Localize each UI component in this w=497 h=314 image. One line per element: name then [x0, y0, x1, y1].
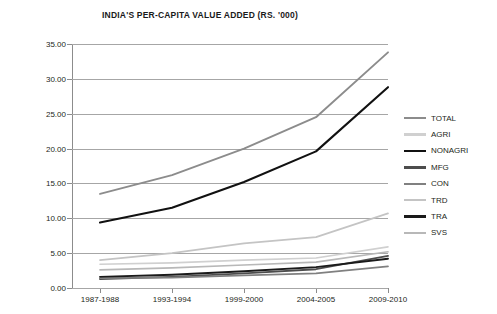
legend-item-mfg[interactable]: MFG — [404, 159, 497, 175]
gridline — [72, 288, 388, 289]
legend-swatch-agri — [404, 133, 426, 135]
x-axis-tick-mark — [244, 289, 245, 293]
y-axis-tick-mark — [67, 183, 72, 184]
legend-item-nonagri[interactable]: NONAGRI — [404, 143, 497, 159]
legend-item-agri[interactable]: AGRI — [404, 126, 497, 142]
y-axis-tick-mark — [67, 44, 72, 45]
y-axis-tick-label: 35.00 — [46, 40, 66, 49]
x-axis-tick-mark — [172, 289, 173, 293]
y-axis-tick-label: 15.00 — [46, 179, 66, 188]
legend-swatch-total — [404, 117, 426, 120]
legend-swatch-mfg — [404, 166, 426, 169]
legend-item-con[interactable]: CON — [404, 176, 497, 192]
legend-label: MFG — [431, 163, 449, 172]
y-axis-tick-mark — [67, 253, 72, 254]
y-axis-tick-mark — [67, 79, 72, 80]
legend-label: TRA — [431, 212, 447, 221]
legend-label: CON — [431, 179, 449, 188]
legend-item-trd[interactable]: TRD — [404, 192, 497, 208]
legend-label: TRD — [431, 196, 447, 205]
y-axis-tick-mark — [67, 288, 72, 289]
x-axis-tick-label: 1993-1994 — [153, 295, 191, 304]
legend-item-tra[interactable]: TRA — [404, 208, 497, 224]
legend-label: TOTAL — [431, 114, 456, 123]
y-axis-tick-label: 30.00 — [46, 74, 66, 83]
y-axis-tick-mark — [67, 149, 72, 150]
y-axis-tick-mark — [67, 114, 72, 115]
y-axis-tick-label: 0.00 — [50, 284, 66, 293]
legend-swatch-con — [404, 183, 426, 185]
x-axis-tick-mark — [316, 289, 317, 293]
x-axis-tick-label: 1987-1988 — [81, 295, 119, 304]
chart-legend: TOTALAGRINONAGRIMFGCONTRDTRASVS — [404, 110, 497, 241]
legend-label: NONAGRI — [431, 146, 468, 155]
series-lines — [72, 44, 388, 288]
legend-item-total[interactable]: TOTAL — [404, 110, 497, 126]
legend-label: AGRI — [431, 130, 451, 139]
series-line-nonagri — [100, 87, 388, 222]
chart-container: INDIA'S PER-CAPITA VALUE ADDED (RS. '000… — [0, 0, 497, 314]
x-axis-tick-label: 2009-2010 — [369, 295, 407, 304]
y-axis-tick-label: 25.00 — [46, 109, 66, 118]
plot-area — [72, 44, 388, 288]
x-axis-tick-mark — [388, 289, 389, 293]
y-axis-tick-mark — [67, 218, 72, 219]
y-axis-tick-labels: 0.005.0010.0015.0020.0025.0030.0035.00 — [0, 44, 66, 289]
x-axis-tick-label: 2004-2005 — [297, 295, 335, 304]
y-axis-tick-label: 20.00 — [46, 144, 66, 153]
x-axis-tick-mark — [100, 289, 101, 293]
legend-swatch-trd — [404, 199, 426, 201]
legend-swatch-svs — [404, 232, 426, 234]
legend-swatch-nonagri — [404, 150, 426, 153]
y-axis-tick-label: 10.00 — [46, 214, 66, 223]
series-line-total — [100, 52, 388, 194]
x-axis-tick-label: 1999-2000 — [225, 295, 263, 304]
legend-label: SVS — [431, 228, 447, 237]
y-axis-tick-label: 5.00 — [50, 249, 66, 258]
chart-title: INDIA'S PER-CAPITA VALUE ADDED (RS. '000… — [0, 10, 400, 20]
legend-item-svs[interactable]: SVS — [404, 225, 497, 241]
legend-swatch-tra — [404, 215, 426, 218]
